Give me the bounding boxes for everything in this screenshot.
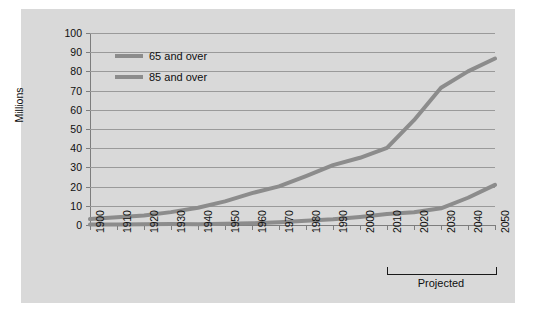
x-tick-mark: [90, 226, 91, 230]
x-tick-mark: [279, 226, 280, 230]
legend-swatch: [115, 75, 143, 79]
x-tick-mark: [360, 226, 361, 230]
y-tick-label: 0: [52, 220, 82, 230]
x-tick-mark: [414, 226, 415, 230]
y-tick-label: 80: [52, 66, 82, 76]
x-tick-label: 1970: [283, 210, 295, 233]
chart-figure: Millions 0102030405060708090100 19001910…: [21, 9, 515, 303]
y-tick-label: 10: [52, 201, 82, 211]
x-tick-mark: [198, 226, 199, 230]
y-tick-label: 90: [52, 47, 82, 57]
x-tick-label: 1990: [337, 210, 349, 233]
legend-item: 65 and over: [115, 47, 207, 64]
x-tick-mark: [171, 226, 172, 230]
x-tick-label: 1900: [94, 210, 106, 233]
x-tick-mark: [441, 226, 442, 230]
legend-item: 85 and over: [115, 68, 207, 85]
x-tick-mark: [333, 226, 334, 230]
x-tick-label: 2010: [391, 210, 403, 233]
x-tick-label: 1960: [256, 210, 268, 233]
x-tick-mark: [252, 226, 253, 230]
x-tick-mark: [495, 226, 496, 230]
x-tick-mark: [468, 226, 469, 230]
y-tick-label: 100: [52, 28, 82, 38]
projected-bracket: [387, 267, 497, 275]
y-tick-label: 70: [52, 86, 82, 96]
x-tick-label: 1930: [175, 210, 187, 233]
x-tick-label: 1910: [121, 210, 133, 233]
x-tick-mark: [387, 226, 388, 230]
x-tick-label: 2020: [418, 210, 430, 233]
chart-legend: 65 and over85 and over: [115, 47, 207, 89]
x-tick-label: 1950: [229, 210, 241, 233]
x-tick-label: 1940: [202, 210, 214, 233]
x-tick-mark: [117, 226, 118, 230]
legend-label: 85 and over: [149, 71, 207, 83]
y-tick-label: 60: [52, 105, 82, 115]
projected-label: Projected: [387, 277, 495, 289]
legend-swatch: [115, 54, 143, 58]
x-tick-label: 2000: [364, 210, 376, 233]
legend-label: 65 and over: [149, 50, 207, 62]
x-tick-mark: [306, 226, 307, 230]
y-tick-label: 50: [52, 124, 82, 134]
y-axis-title: Millions: [13, 87, 25, 122]
x-tick-mark: [225, 226, 226, 230]
y-tick-label: 20: [52, 182, 82, 192]
x-tick-label: 2040: [472, 210, 484, 233]
x-tick-label: 1980: [310, 210, 322, 233]
y-tick-label: 40: [52, 143, 82, 153]
x-tick-mark: [144, 226, 145, 230]
x-tick-label: 1920: [148, 210, 160, 233]
x-tick-label: 2030: [445, 210, 457, 233]
x-tick-label: 2050: [499, 210, 511, 233]
y-tick-label: 30: [52, 162, 82, 172]
